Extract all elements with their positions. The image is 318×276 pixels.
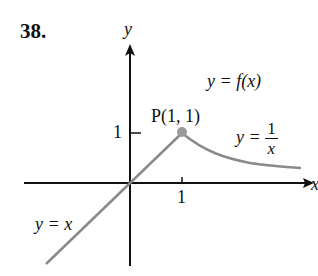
problem-number: 38. xyxy=(20,19,46,44)
function-label: y = f(x) xyxy=(207,72,261,90)
x-axis-label: x xyxy=(311,175,318,193)
fraction-denominator: x xyxy=(265,139,278,157)
point-label: P(1, 1) xyxy=(151,107,200,125)
right-piece-label: y = 1 x xyxy=(236,120,278,157)
fraction: 1 x xyxy=(265,120,278,157)
figure: 38. y x 1 1 y = f(x) P(1, 1) y = x y = 1… xyxy=(0,0,318,276)
y-tick-label: 1 xyxy=(113,123,122,141)
right-piece-prefix: y = xyxy=(236,127,261,147)
point-p xyxy=(177,127,187,137)
left-piece-label: y = x xyxy=(35,215,72,233)
x-tick-label: 1 xyxy=(177,188,186,206)
line-y-equals-x xyxy=(46,133,182,264)
y-axis-label: y xyxy=(124,20,132,38)
fraction-numerator: 1 xyxy=(265,120,278,139)
